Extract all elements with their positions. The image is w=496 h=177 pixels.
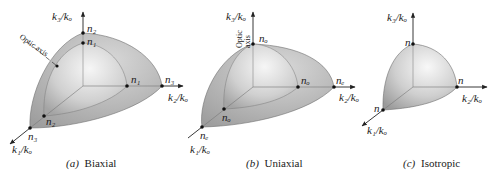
label-front-inner: nₒ: [222, 111, 231, 123]
caption-biaxial: (a) Biaxial: [66, 157, 116, 170]
k1-axis-label: k₁/kₒ: [190, 143, 210, 155]
caption-uniaxial: (b) Uniaxial: [246, 157, 302, 170]
caption-isotropic: (c) Isotropic: [403, 157, 460, 170]
point-optic-axis: [55, 64, 58, 67]
point-top: [411, 42, 415, 46]
k1-axis: [10, 128, 30, 144]
optic-axis-label-line2: axis: [243, 35, 252, 48]
caption-prefix: (c): [403, 157, 416, 170]
label-top: n: [405, 36, 411, 48]
label-top-outer: n₂: [87, 22, 97, 34]
k3-axis-label: k₃/kₒ: [226, 10, 246, 22]
point-right-inner: [125, 84, 129, 88]
panel-uniaxial: k₃/kₒ k₂/kₒ k₁/kₒ nₒ nₒ nₑ nₒ nₑ Optic a…: [188, 10, 359, 170]
point-top-inner: [81, 41, 85, 45]
label-front-inner: n₂: [46, 115, 56, 127]
point-right-inner: [296, 85, 300, 89]
label-right-inner: nₒ: [301, 74, 310, 86]
index-surfaces-figure: k₃/kₒ k₂/kₒ k₁/kₒ n₂ n₁ n₁ n₃ n₂ n₃ Opti…: [0, 0, 496, 177]
caption-text: Isotropic: [421, 157, 460, 169]
caption-prefix: (a): [66, 157, 79, 170]
panel-biaxial: k₃/kₒ k₂/kₒ k₁/kₒ n₂ n₁ n₁ n₃ n₂ n₃ Opti…: [10, 10, 188, 170]
label-right: n: [458, 74, 464, 86]
label-front-outer: n₃: [28, 130, 38, 142]
label-right-outer: n₃: [165, 73, 175, 85]
label-right-outer: nₑ: [336, 74, 345, 86]
index-sphere-octant: [383, 44, 457, 110]
k1-axis-label: k₁/kₒ: [12, 143, 32, 155]
caption-prefix: (b): [246, 157, 259, 170]
k3-axis-label: k₃/kₒ: [52, 10, 72, 22]
point-front: [381, 108, 385, 112]
k2-axis-label: k₂/kₒ: [168, 91, 188, 103]
label-top-inner: n₁: [87, 35, 97, 47]
label-right-inner: n₁: [131, 73, 141, 85]
caption-text: Biaxial: [85, 157, 117, 169]
point-right-outer: [160, 84, 164, 88]
caption-text: Uniaxial: [265, 157, 303, 169]
optic-axis-label: Optic axis: [18, 32, 50, 58]
label-top: nₒ: [259, 32, 268, 44]
k1-axis-label: k₁/kₒ: [367, 124, 387, 136]
point-top-outer: [81, 31, 85, 35]
k2-axis-label: k₂/kₒ: [462, 92, 482, 104]
label-front-outer: nₑ: [200, 129, 209, 141]
label-front: n: [374, 102, 380, 114]
panel-isotropic: k₃/kₒ k₂/kₒ k₁/kₒ n n n (c) Isotropic: [362, 11, 487, 170]
k2-axis-label: k₂/kₒ: [339, 91, 359, 103]
k3-axis-label: k₃/kₒ: [387, 11, 407, 23]
